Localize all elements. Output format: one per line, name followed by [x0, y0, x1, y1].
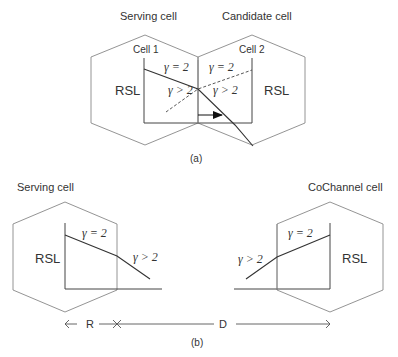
figure-a: Serving cell Candidate cell Cell 1 Cell …	[91, 10, 305, 164]
r-dimension: R	[65, 318, 117, 330]
cell2-label: Cell 2	[239, 44, 265, 55]
gamma-gt-right: γ > 2	[213, 83, 238, 97]
gamma-gt-left-b: γ > 2	[133, 250, 158, 264]
rsl-left-label: RSL	[115, 83, 140, 98]
gamma-eq-left-b: γ = 2	[82, 226, 107, 240]
serving-cell-label-b: Serving cell	[17, 181, 74, 193]
gamma-eq-right-b: γ = 2	[288, 226, 313, 240]
d-label: D	[219, 318, 227, 330]
serving-cell-label: Serving cell	[120, 10, 177, 22]
r-label: R	[86, 318, 94, 330]
rsl-right-label-b: RSL	[342, 251, 367, 266]
figure-b: Serving cell CoChannel cell RSL γ = 2 γ …	[13, 181, 383, 348]
cell1-label: Cell 1	[133, 44, 159, 55]
serving-rsl-curve	[144, 69, 253, 146]
gamma-eq-left: γ = 2	[164, 60, 189, 74]
cochannel-cell-label: CoChannel cell	[308, 181, 383, 193]
gamma-eq-right: γ = 2	[209, 60, 234, 74]
gamma-gt-right-b: γ > 2	[238, 252, 263, 266]
gamma-gt-left: γ > 2	[168, 83, 193, 97]
caption-b: (b)	[191, 337, 203, 348]
rsl-left-label-b: RSL	[35, 251, 60, 266]
caption-a: (a)	[190, 153, 202, 164]
rsl-right-label: RSL	[264, 83, 289, 98]
d-dimension: D	[117, 318, 330, 330]
handoff-diagram: Serving cell Candidate cell Cell 1 Cell …	[0, 0, 398, 357]
candidate-cell-label: Candidate cell	[222, 10, 292, 22]
